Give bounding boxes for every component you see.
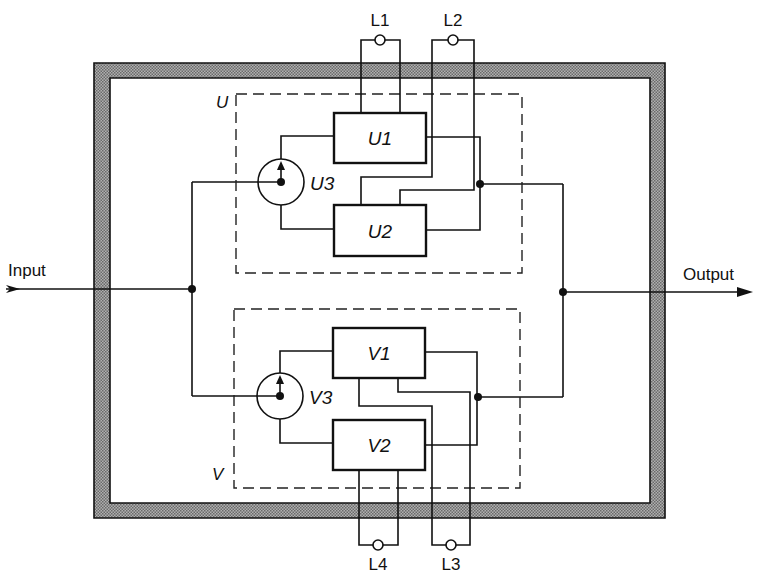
output-junction-dot [559,288,567,296]
input-junction-dot [188,285,196,293]
svg-text:L4: L4 [369,555,388,574]
svg-text:L2: L2 [444,11,463,30]
block-u2-label: U2 [368,221,393,242]
svg-text:L3: L3 [442,555,461,574]
group-u-label: U [216,93,229,112]
switch-v3-label: V3 [309,387,333,408]
output-bus [478,184,567,397]
switch-arrow-icon [277,161,285,170]
block-u1-label: U1 [368,128,392,149]
block-v1-label: V1 [367,343,390,364]
group-v-label: V [212,465,225,484]
svg-text:L1: L1 [371,11,390,30]
output-label: Output [683,265,734,284]
switch-arrow-icon [276,375,284,384]
input-label: Input [8,261,46,280]
redundancy-diagram: U U3 U1 U2 V V3 [0,0,761,577]
switch-u3-label: U3 [310,173,335,194]
block-v2-label: V2 [367,435,391,456]
